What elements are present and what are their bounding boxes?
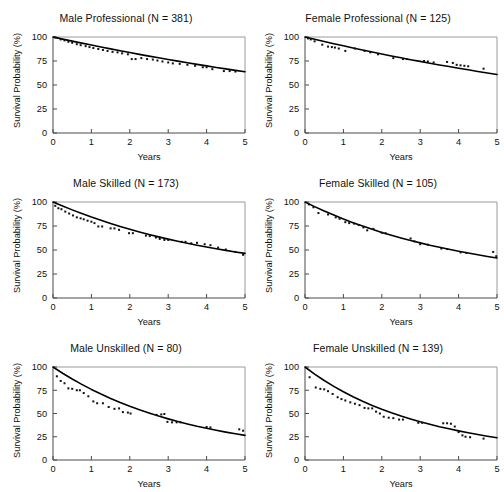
svg-text:0: 0 xyxy=(302,137,307,147)
svg-text:2: 2 xyxy=(127,464,132,474)
svg-text:4: 4 xyxy=(456,137,461,147)
plot-area: 0255075100012345 xyxy=(252,0,504,165)
svg-text:100: 100 xyxy=(32,362,47,372)
svg-text:1: 1 xyxy=(89,464,94,474)
svg-text:1: 1 xyxy=(341,302,346,312)
x-axis-label: Years xyxy=(53,152,245,162)
svg-text:3: 3 xyxy=(418,302,423,312)
svg-text:3: 3 xyxy=(166,464,171,474)
y-axis-label: Survival Probability (%) xyxy=(12,198,22,293)
svg-text:75: 75 xyxy=(289,386,299,396)
panel-female-skilled: Female Skilled (N = 105) 025507510001234… xyxy=(252,165,504,330)
svg-text:5: 5 xyxy=(494,464,499,474)
svg-text:50: 50 xyxy=(289,409,299,419)
panel-female-unskilled: Female Unskilled (N = 139) 0255075100012… xyxy=(252,330,504,492)
svg-text:2: 2 xyxy=(379,464,384,474)
plot-area: 0255075100012345 xyxy=(0,330,252,492)
svg-text:0: 0 xyxy=(302,464,307,474)
svg-text:50: 50 xyxy=(289,245,299,255)
y-axis-label: Survival Probability (%) xyxy=(12,363,22,458)
panel-male-professional: Male Professional (N = 381) 025507510001… xyxy=(0,0,252,165)
svg-text:5: 5 xyxy=(242,464,247,474)
svg-text:25: 25 xyxy=(37,432,47,442)
x-axis-label: Years xyxy=(305,479,497,489)
svg-text:50: 50 xyxy=(37,80,47,90)
plot-svg: 0255075100012345 xyxy=(0,330,252,492)
plot-svg: 0255075100012345 xyxy=(252,165,504,330)
svg-text:4: 4 xyxy=(204,302,209,312)
svg-text:0: 0 xyxy=(294,128,299,138)
svg-text:50: 50 xyxy=(289,80,299,90)
y-axis-label: Survival Probability (%) xyxy=(264,33,274,128)
y-axis-label: Survival Probability (%) xyxy=(12,33,22,128)
svg-text:25: 25 xyxy=(289,269,299,279)
svg-text:4: 4 xyxy=(204,464,209,474)
svg-text:3: 3 xyxy=(418,137,423,147)
svg-text:75: 75 xyxy=(37,386,47,396)
svg-text:5: 5 xyxy=(494,137,499,147)
svg-text:0: 0 xyxy=(294,293,299,303)
svg-text:0: 0 xyxy=(50,302,55,312)
svg-text:50: 50 xyxy=(37,245,47,255)
svg-text:1: 1 xyxy=(89,302,94,312)
svg-text:0: 0 xyxy=(42,293,47,303)
plot-svg: 0255075100012345 xyxy=(252,0,504,165)
svg-text:3: 3 xyxy=(418,464,423,474)
svg-text:75: 75 xyxy=(37,221,47,231)
panel-male-skilled: Male Skilled (N = 173) 0255075100012345 … xyxy=(0,165,252,330)
svg-text:0: 0 xyxy=(50,464,55,474)
x-axis-label: Years xyxy=(305,152,497,162)
svg-text:100: 100 xyxy=(284,362,299,372)
svg-text:5: 5 xyxy=(494,302,499,312)
svg-text:0: 0 xyxy=(302,302,307,312)
svg-text:5: 5 xyxy=(242,137,247,147)
svg-text:0: 0 xyxy=(294,455,299,465)
svg-text:50: 50 xyxy=(37,409,47,419)
svg-text:3: 3 xyxy=(166,302,171,312)
svg-text:3: 3 xyxy=(166,137,171,147)
svg-text:2: 2 xyxy=(379,302,384,312)
plot-svg: 0255075100012345 xyxy=(252,330,504,492)
svg-text:0: 0 xyxy=(50,137,55,147)
svg-text:2: 2 xyxy=(127,302,132,312)
svg-text:100: 100 xyxy=(284,32,299,42)
panel-female-professional: Female Professional (N = 125) 0255075100… xyxy=(252,0,504,165)
y-axis-label: Survival Probability (%) xyxy=(264,363,274,458)
svg-text:1: 1 xyxy=(89,137,94,147)
svg-text:5: 5 xyxy=(242,302,247,312)
x-axis-label: Years xyxy=(53,479,245,489)
svg-text:0: 0 xyxy=(42,455,47,465)
plot-area: 0255075100012345 xyxy=(0,0,252,165)
y-axis-label: Survival Probability (%) xyxy=(264,198,274,293)
svg-text:25: 25 xyxy=(37,269,47,279)
survival-curve-figure: Male Professional (N = 381) 025507510001… xyxy=(0,0,504,492)
x-axis-label: Years xyxy=(305,317,497,327)
svg-text:25: 25 xyxy=(37,104,47,114)
plot-area: 0255075100012345 xyxy=(252,165,504,330)
panel-male-unskilled: Male Unskilled (N = 80) 0255075100012345… xyxy=(0,330,252,492)
svg-text:100: 100 xyxy=(32,32,47,42)
svg-text:2: 2 xyxy=(127,137,132,147)
svg-text:4: 4 xyxy=(456,302,461,312)
svg-text:75: 75 xyxy=(37,56,47,66)
svg-text:100: 100 xyxy=(32,197,47,207)
svg-text:100: 100 xyxy=(284,197,299,207)
svg-text:2: 2 xyxy=(379,137,384,147)
plot-area: 0255075100012345 xyxy=(0,165,252,330)
svg-text:0: 0 xyxy=(42,128,47,138)
plot-svg: 0255075100012345 xyxy=(0,165,252,330)
svg-text:4: 4 xyxy=(456,464,461,474)
svg-text:4: 4 xyxy=(204,137,209,147)
plot-svg: 0255075100012345 xyxy=(0,0,252,165)
plot-area: 0255075100012345 xyxy=(252,330,504,492)
svg-text:25: 25 xyxy=(289,104,299,114)
x-axis-label: Years xyxy=(53,317,245,327)
svg-text:25: 25 xyxy=(289,432,299,442)
svg-text:1: 1 xyxy=(341,137,346,147)
svg-text:75: 75 xyxy=(289,221,299,231)
svg-text:75: 75 xyxy=(289,56,299,66)
svg-text:1: 1 xyxy=(341,464,346,474)
